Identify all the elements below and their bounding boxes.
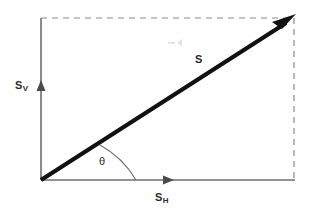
horizontal-axis-arrow-icon: [163, 176, 174, 185]
label-horizontal-component: SH: [155, 188, 169, 205]
label-resultant: S: [195, 50, 202, 66]
label-vertical-component: SV: [15, 76, 28, 93]
label-sv-base: S: [15, 79, 22, 91]
faint-artifact: [168, 39, 182, 47]
vector-diagram-canvas: SV SH S θ: [0, 0, 310, 212]
label-sv-sub: V: [23, 84, 28, 93]
resultant-vector-arrowhead-icon: [272, 14, 296, 29]
resultant-vector: [41, 23, 286, 180]
label-angle-theta: θ: [99, 152, 105, 168]
angle-arc: [100, 145, 136, 180]
label-sh-sub: H: [163, 196, 169, 205]
label-sh-base: S: [155, 191, 162, 203]
vertical-axis-arrow-icon: [37, 80, 46, 91]
label-theta-base: θ: [99, 155, 105, 167]
label-s-base: S: [195, 53, 202, 65]
diagram-svg: [0, 0, 310, 212]
